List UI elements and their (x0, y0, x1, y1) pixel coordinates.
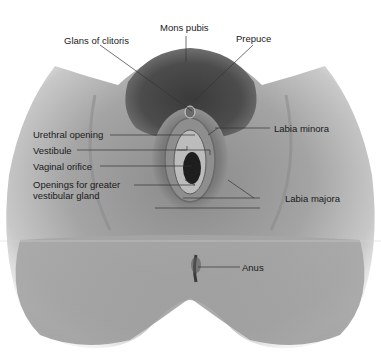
anatomy-diagram: Mons pubis Glans of clitoris Prepuce Ure… (0, 0, 381, 362)
label-anus: Anus (242, 262, 264, 273)
label-vestibule: Vestibule (33, 145, 72, 156)
label-urethral-opening: Urethral opening (33, 129, 103, 140)
label-openings-greater-vestibular-gland: Openings for greater (33, 179, 120, 190)
label-openings-greater-vestibular-gland-line2: vestibular gland (33, 190, 100, 201)
label-labia-majora: Labia majora (285, 193, 340, 204)
label-glans-of-clitoris: Glans of clitoris (64, 35, 129, 46)
label-mons-pubis: Mons pubis (160, 22, 209, 33)
buttocks (16, 235, 365, 345)
label-labia-minora: Labia minora (274, 123, 329, 134)
label-vaginal-orifice: Vaginal orifice (33, 161, 92, 172)
label-prepuce: Prepuce (236, 33, 271, 44)
